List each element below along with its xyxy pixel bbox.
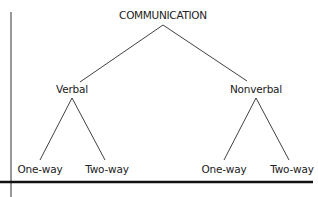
verbal-twoway-label: Two-way <box>85 163 129 175</box>
edge-root-nonverbal <box>163 25 247 81</box>
nonverbal-twoway-label: Two-way <box>270 163 314 175</box>
edge-nonverbal-twoway <box>256 98 289 160</box>
edge-verbal-oneway <box>40 98 72 160</box>
edge-nonverbal-oneway <box>224 98 256 160</box>
edge-verbal-twoway <box>72 98 105 160</box>
verbal-node-label: Verbal <box>56 83 88 95</box>
nonverbal-oneway-label: One-way <box>201 163 246 175</box>
edge-root-verbal <box>80 25 163 82</box>
communication-tree-diagram: COMMUNICATION Verbal Nonverbal One-way T… <box>0 0 318 197</box>
verbal-oneway-label: One-way <box>17 163 62 175</box>
root-node-label: COMMUNICATION <box>119 9 207 21</box>
nonverbal-node-label: Nonverbal <box>230 83 282 95</box>
